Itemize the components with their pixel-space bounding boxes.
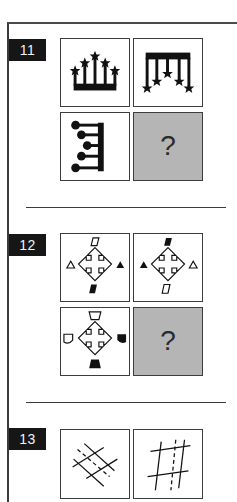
comb-stars-down-icon xyxy=(134,39,202,106)
question-mark: ? xyxy=(134,326,202,356)
cross-arrows-triangles-icon xyxy=(61,234,129,301)
comb-dots-left-icon xyxy=(61,113,129,180)
crown-stars-icon xyxy=(61,39,129,106)
question-number-13: 13 xyxy=(9,428,46,450)
q11-panel-1-crown-stars[interactable] xyxy=(60,38,130,107)
question-mark: ? xyxy=(134,131,202,161)
question-number-11: 11 xyxy=(9,39,46,61)
q11-answer-panel[interactable]: ? xyxy=(133,112,203,181)
cross-arrows-triangles-icon xyxy=(134,234,202,301)
q12-panel-2[interactable] xyxy=(133,233,203,302)
q11-panel-2-comb-stars-down[interactable] xyxy=(133,38,203,107)
q12-answer-panel[interactable]: ? xyxy=(133,307,203,376)
hash-grid-icon xyxy=(134,430,202,498)
separator-line xyxy=(26,207,226,208)
separator-line xyxy=(26,402,226,403)
q13-panel-2[interactable] xyxy=(133,429,203,499)
diagonal-lattice-icon xyxy=(61,430,129,498)
cross-arrows-shields-icon xyxy=(61,308,129,375)
q12-panel-1[interactable] xyxy=(60,233,130,302)
q13-panel-1[interactable] xyxy=(60,429,130,499)
q12-panel-3[interactable] xyxy=(60,307,130,376)
question-number-12: 12 xyxy=(9,234,46,256)
q11-panel-3-comb-dots-left[interactable] xyxy=(60,112,130,181)
